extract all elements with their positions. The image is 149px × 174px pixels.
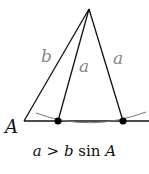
caption-var-a: a bbox=[33, 142, 42, 160]
label-a-right: a bbox=[113, 48, 123, 68]
caption-inequality: a > b sin A bbox=[0, 142, 149, 160]
intersection-point-right bbox=[120, 118, 127, 125]
caption-var-A: A bbox=[105, 142, 116, 160]
caption-op: > bbox=[47, 142, 60, 160]
intersection-point-left bbox=[55, 118, 62, 125]
label-a-left: a bbox=[79, 56, 89, 76]
caption-var-b: b bbox=[64, 142, 74, 160]
label-vertex-A: A bbox=[3, 116, 18, 137]
label-b: b bbox=[41, 46, 52, 66]
caption-func: sin bbox=[78, 142, 100, 160]
